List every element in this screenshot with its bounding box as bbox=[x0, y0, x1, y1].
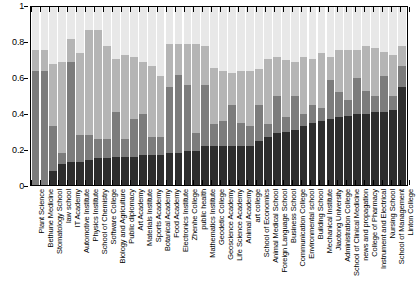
bar-segment bbox=[76, 53, 84, 135]
bar-segment bbox=[344, 100, 352, 116]
x-axis-tick bbox=[31, 180, 32, 185]
bar-segment bbox=[353, 78, 361, 114]
bar-segment bbox=[94, 139, 102, 159]
x-axis-tick bbox=[166, 180, 167, 185]
bar-segment bbox=[335, 92, 343, 117]
bar bbox=[246, 7, 254, 185]
bar bbox=[85, 7, 93, 185]
bar bbox=[103, 7, 111, 185]
x-axis-tick-label: School of Management bbox=[398, 189, 406, 264]
bar-segment bbox=[130, 157, 138, 185]
x-axis-tick bbox=[85, 180, 86, 185]
x-axis-tick bbox=[49, 7, 50, 12]
bar-segment bbox=[201, 46, 209, 85]
bar-segment bbox=[210, 7, 218, 68]
bar bbox=[362, 7, 370, 185]
bar-segment bbox=[282, 117, 290, 131]
bar bbox=[282, 7, 290, 185]
bar-segment bbox=[121, 7, 129, 55]
bar bbox=[353, 7, 361, 185]
x-axis-tick bbox=[211, 180, 212, 185]
bar bbox=[49, 7, 57, 185]
x-axis-tick bbox=[373, 7, 374, 12]
x-axis-tick-label: Software College bbox=[110, 189, 118, 245]
bar-segment bbox=[335, 50, 343, 93]
x-axis-tick bbox=[139, 7, 140, 12]
bar-segment bbox=[389, 96, 397, 110]
bar-segment bbox=[228, 73, 236, 105]
bar-segment bbox=[344, 50, 352, 100]
x-axis-tick bbox=[220, 180, 221, 185]
x-axis-tick bbox=[184, 7, 185, 12]
bar-segment bbox=[264, 137, 272, 185]
x-axis-tick bbox=[328, 180, 329, 185]
bar-segment bbox=[41, 7, 49, 50]
bar bbox=[318, 7, 326, 185]
bar bbox=[380, 7, 388, 185]
x-axis-tick bbox=[391, 180, 392, 185]
bar-segment bbox=[121, 139, 129, 157]
bar bbox=[130, 7, 138, 185]
bar bbox=[228, 7, 236, 185]
x-axis-tick-label: Mechanical Institute bbox=[326, 189, 334, 253]
bar-segment bbox=[130, 119, 138, 156]
bar-segment bbox=[264, 124, 272, 136]
bar-segment bbox=[237, 123, 245, 146]
y-axis-tick-label: 0.6 bbox=[12, 73, 24, 83]
x-axis-tick bbox=[355, 7, 356, 12]
y-axis-tick bbox=[24, 114, 28, 115]
bar bbox=[94, 7, 102, 185]
bar bbox=[192, 7, 200, 185]
bar-segment bbox=[139, 62, 147, 114]
bar-segment bbox=[273, 96, 281, 133]
x-axis-tick bbox=[256, 7, 257, 12]
x-axis-tick bbox=[40, 7, 41, 12]
x-axis-tick-label: Administration College bbox=[344, 189, 352, 262]
x-axis-tick bbox=[130, 7, 131, 12]
bar bbox=[344, 7, 352, 185]
bar-segment bbox=[291, 96, 299, 130]
x-axis-tick bbox=[364, 7, 365, 12]
bar-segment bbox=[362, 46, 370, 91]
bar-segment bbox=[121, 157, 129, 185]
x-axis-tick bbox=[310, 7, 311, 12]
x-axis-tick bbox=[58, 180, 59, 185]
bar bbox=[112, 7, 120, 185]
x-axis-tick bbox=[292, 7, 293, 12]
y-axis-tick-label: 0.8 bbox=[12, 37, 24, 47]
bar-segment bbox=[246, 71, 254, 126]
bar-segment bbox=[192, 133, 200, 151]
bar-segment bbox=[371, 112, 379, 185]
bar-segment bbox=[166, 44, 174, 87]
x-axis-tick bbox=[211, 7, 212, 12]
x-axis-tick bbox=[319, 7, 320, 12]
bar-segment bbox=[67, 7, 75, 39]
bar-segment bbox=[121, 55, 129, 139]
bar-segment bbox=[371, 7, 379, 48]
bar-segment bbox=[228, 7, 236, 73]
bar-segment bbox=[327, 7, 335, 57]
x-axis-tick-label: College of Pharmacy bbox=[371, 189, 379, 257]
bar bbox=[148, 7, 156, 185]
x-axis-tick bbox=[31, 7, 32, 12]
y-axis-tick-label: 0.4 bbox=[12, 109, 24, 119]
bar-segment bbox=[192, 7, 200, 44]
x-axis-tick bbox=[67, 7, 68, 12]
bar-segment bbox=[103, 158, 111, 185]
x-axis-tick-label: Biology and Agriculture bbox=[119, 189, 127, 263]
x-axis-tick-label: Food Academy bbox=[173, 189, 181, 238]
x-axis-tick bbox=[400, 180, 401, 185]
bar-segment bbox=[335, 117, 343, 185]
bar-segment bbox=[300, 7, 308, 57]
bar-segment bbox=[371, 96, 379, 112]
bar bbox=[389, 7, 397, 185]
bar-segment bbox=[67, 62, 75, 162]
bar-segment bbox=[309, 105, 317, 123]
x-axis-tick bbox=[49, 180, 50, 185]
x-axis-tick-label: Physics Institute bbox=[92, 189, 100, 242]
x-axis-tick bbox=[382, 180, 383, 185]
bar-segment bbox=[309, 123, 317, 185]
x-axis-tick bbox=[121, 7, 122, 12]
bar-segment bbox=[362, 7, 370, 46]
bar-segment bbox=[264, 59, 272, 125]
